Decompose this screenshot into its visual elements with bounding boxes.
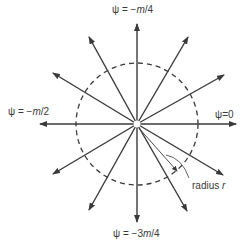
label-eq: = −	[15, 106, 32, 117]
radius-indicator-arrow	[137, 126, 177, 171]
arrow-down-left-steep	[89, 124, 137, 210]
label-psi-minus-m-over-2: ψ = −m/2	[8, 107, 49, 117]
label-radius-r: radius r	[192, 181, 225, 191]
radius-leader-curve	[166, 155, 189, 178]
arrow-up-right-shallow	[137, 75, 224, 124]
label-rest: /4	[145, 4, 153, 15]
label-var: m	[136, 4, 144, 15]
label-psi-0: ψ=0	[215, 110, 234, 120]
label-rest: /4	[151, 228, 159, 239]
label-eq: =0	[222, 109, 233, 120]
label-eq: = −3	[120, 228, 143, 239]
source-center	[134, 121, 141, 128]
label-psi-minus-m-over-4: ψ = −m/4	[112, 5, 153, 15]
radial-field-diagram: ψ = −m/4 ψ = −m/2 ψ=0 ψ = −3m/4 radius r	[0, 0, 246, 244]
radius-text: radius	[192, 180, 222, 191]
diagram-canvas	[0, 0, 246, 244]
radius-var: r	[222, 180, 225, 191]
label-psi-minus-3m-over-4: ψ = −3m/4	[113, 229, 160, 239]
label-var: m	[32, 106, 40, 117]
arrow-up-left-steep	[89, 37, 137, 124]
label-eq: = −	[119, 4, 136, 15]
arrow-down-left-shallow	[53, 124, 137, 174]
label-rest: /2	[41, 106, 49, 117]
arrow-up-left-shallow	[53, 73, 137, 124]
